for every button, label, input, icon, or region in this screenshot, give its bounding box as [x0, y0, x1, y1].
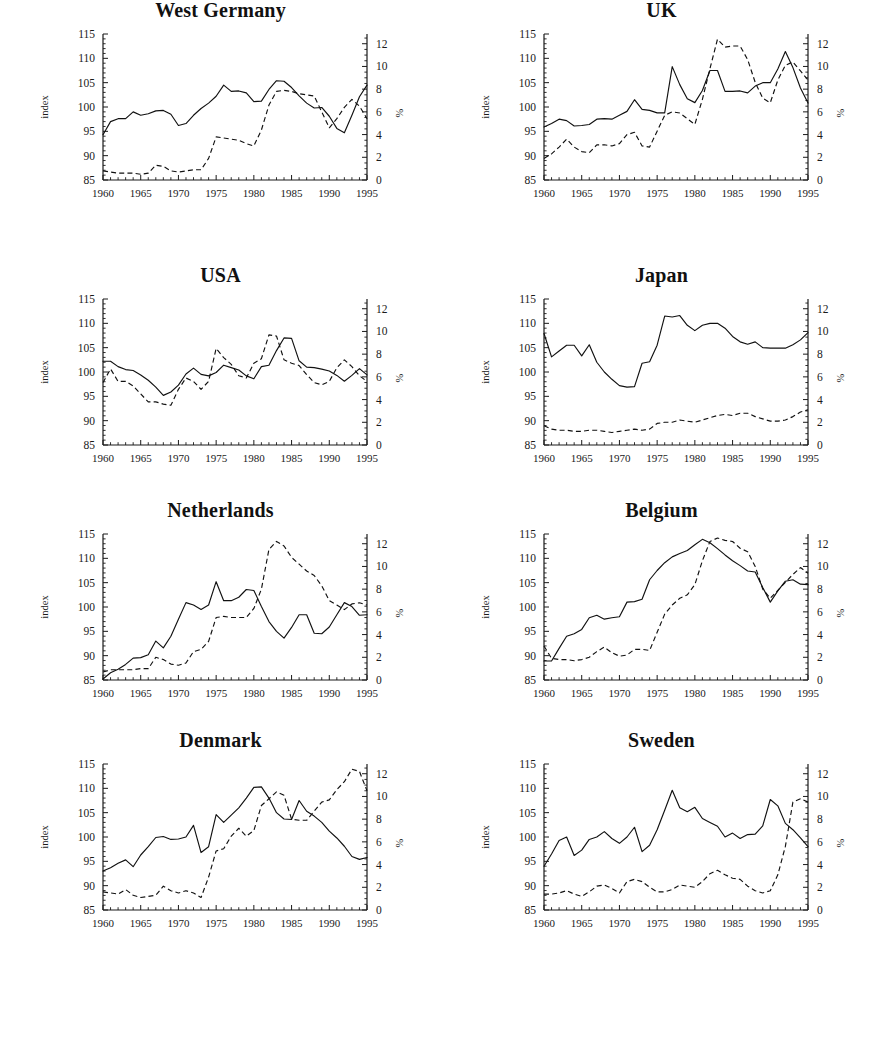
left-axis-tick-label: 90 — [525, 150, 537, 162]
left-axis-tick-label: 85 — [84, 439, 96, 451]
series-group — [103, 541, 367, 679]
x-axis-tick-label: 1980 — [684, 187, 707, 199]
series-group — [544, 316, 808, 433]
x-axis-tick-label: 1970 — [608, 187, 631, 199]
x-axis-tick-label: 1965 — [571, 687, 594, 699]
right-axis-tick-label: 6 — [376, 106, 382, 118]
x-axis-tick-label: 1995 — [797, 687, 820, 699]
series-line-unemployment_pct — [544, 410, 808, 433]
left-axis-tick-label: 100 — [78, 101, 96, 113]
left-axis-tick-label: 95 — [84, 855, 96, 867]
chart-title: USA — [0, 265, 441, 285]
x-axis-tick-label: 1980 — [243, 187, 266, 199]
left-axis: 859095100105110115index — [39, 758, 108, 916]
chart-panel: USA859095100105110115index024681012%1960… — [0, 265, 441, 500]
x-axis-tick-label: 1990 — [318, 687, 341, 699]
right-axis-tick-label: 6 — [376, 606, 382, 618]
x-axis: 19601965197019751980198519901995 — [92, 440, 379, 464]
series-group — [103, 769, 367, 897]
x-axis-tick-label: 1975 — [646, 187, 669, 199]
right-axis-tick-label: 12 — [817, 768, 829, 780]
right-axis-tick-label: 4 — [376, 629, 382, 641]
series-group — [103, 81, 367, 175]
right-axis: 024681012% — [362, 34, 405, 186]
left-axis-tick-label: 95 — [84, 125, 96, 137]
right-axis-tick-label: 2 — [376, 151, 382, 163]
x-axis-tick-label: 1990 — [759, 187, 782, 199]
left-axis: 859095100105110115index — [480, 28, 549, 186]
series-group — [544, 538, 808, 661]
left-axis-tick-label: 110 — [519, 52, 536, 64]
left-axis-label: index — [480, 95, 491, 119]
right-axis-tick-label: 2 — [376, 651, 382, 663]
x-axis-tick-label: 1995 — [797, 917, 820, 929]
x-axis-tick-label: 1995 — [356, 687, 379, 699]
x-axis-tick-label: 1985 — [281, 452, 304, 464]
left-axis-tick-label: 110 — [78, 52, 95, 64]
right-axis-label: % — [394, 373, 405, 382]
chart-title: UK — [441, 0, 882, 20]
x-axis: 19601965197019751980198519901995 — [533, 905, 820, 929]
x-axis-tick-label: 1965 — [571, 187, 594, 199]
chart-panel: Netherlands859095100105110115index024681… — [0, 500, 441, 730]
x-axis: 19601965197019751980198519901995 — [533, 440, 820, 464]
right-axis-tick-label: 0 — [376, 674, 382, 686]
right-axis-tick-label: 8 — [817, 583, 823, 595]
left-axis-tick-label: 100 — [519, 601, 537, 613]
left-axis-tick-label: 90 — [84, 150, 96, 162]
left-axis-tick-label: 105 — [519, 342, 537, 354]
x-axis-tick-label: 1990 — [759, 687, 782, 699]
right-axis-tick-label: 8 — [817, 348, 823, 360]
x-axis-tick-label: 1965 — [130, 917, 153, 929]
left-axis-tick-label: 95 — [525, 625, 537, 637]
right-axis-tick-label: 8 — [376, 348, 382, 360]
right-axis-tick-label: 2 — [817, 151, 823, 163]
x-axis-tick-label: 1980 — [684, 452, 707, 464]
x-axis-tick-label: 1990 — [759, 452, 782, 464]
chart-svg: 859095100105110115index024681012%1960196… — [0, 20, 441, 208]
left-axis-tick-label: 110 — [78, 782, 95, 794]
chart-svg: 859095100105110115index024681012%1960196… — [441, 750, 882, 938]
right-axis-tick-label: 4 — [376, 394, 382, 406]
right-axis-tick-label: 0 — [376, 439, 382, 451]
chart-svg: 859095100105110115index024681012%1960196… — [0, 285, 441, 473]
right-axis-tick-label: 10 — [376, 60, 388, 72]
x-axis-tick-label: 1970 — [608, 452, 631, 464]
x-axis-tick-label: 1985 — [281, 917, 304, 929]
x-axis-tick-label: 1960 — [92, 452, 115, 464]
plot-area: 859095100105110115index024681012%1960196… — [441, 20, 882, 208]
left-axis: 859095100105110115index — [39, 528, 108, 686]
x-axis: 19601965197019751980198519901995 — [92, 675, 379, 699]
left-axis-tick-label: 115 — [519, 528, 536, 540]
right-axis-tick-label: 12 — [376, 768, 388, 780]
left-axis-tick-label: 90 — [525, 880, 537, 892]
series-line-index — [103, 787, 367, 871]
right-axis-tick-label: 2 — [376, 416, 382, 428]
left-axis-tick-label: 110 — [78, 552, 95, 564]
right-axis-tick-label: 0 — [817, 174, 823, 186]
series-line-unemployment_pct — [103, 90, 367, 174]
chart-grid: West Germany859095100105110115index02468… — [0, 0, 882, 1042]
multi-panel-chart-figure: West Germany859095100105110115index02468… — [0, 0, 882, 1042]
right-axis-tick-label: 6 — [817, 836, 823, 848]
x-axis-tick-label: 1995 — [356, 452, 379, 464]
left-axis-tick-label: 100 — [78, 601, 96, 613]
x-axis-tick-label: 1970 — [608, 687, 631, 699]
x-axis-tick-label: 1970 — [167, 187, 190, 199]
left-axis-tick-label: 115 — [519, 28, 536, 40]
x-axis-tick-label: 1965 — [130, 452, 153, 464]
right-axis-tick-label: 12 — [817, 38, 829, 50]
x-axis-tick-label: 1990 — [318, 187, 341, 199]
series-line-unemployment_pct — [103, 541, 367, 672]
right-axis-tick-label: 8 — [817, 813, 823, 825]
plot-area: 859095100105110115index024681012%1960196… — [0, 285, 441, 473]
series-line-index — [544, 52, 808, 127]
plot-area: 859095100105110115index024681012%1960196… — [0, 520, 441, 708]
right-axis-tick-label: 10 — [376, 325, 388, 337]
right-axis-tick-label: 8 — [376, 583, 382, 595]
right-axis-tick-label: 4 — [817, 394, 823, 406]
right-axis-tick-label: 6 — [376, 371, 382, 383]
right-axis-tick-label: 0 — [817, 904, 823, 916]
series-line-index — [544, 539, 808, 661]
x-axis-tick-label: 1970 — [608, 917, 631, 929]
